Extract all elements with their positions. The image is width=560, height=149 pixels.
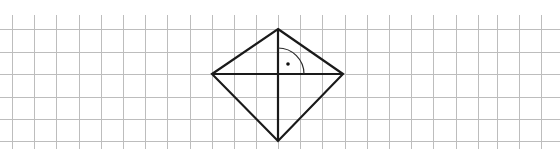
- grid-paper: [0, 15, 560, 149]
- grid-diagram: [0, 0, 560, 149]
- right-angle-dot-icon: [286, 62, 290, 66]
- rhombus: [212, 29, 343, 141]
